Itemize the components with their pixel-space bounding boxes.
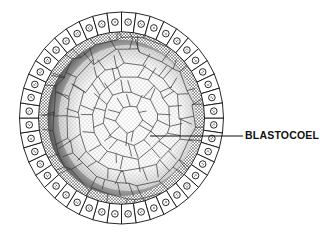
blastula-illustration bbox=[0, 0, 333, 239]
blastocoel-label: BLASTOCOEL bbox=[245, 129, 319, 141]
blastula-diagram: BLASTOCOEL bbox=[0, 0, 333, 239]
